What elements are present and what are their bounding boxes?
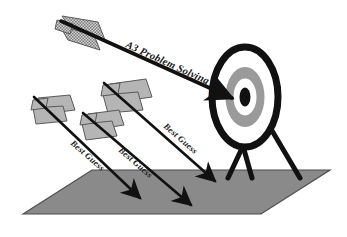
arrow-shaft <box>104 83 215 181</box>
arrow-label-a3-problem-solving: A3 Problem Solving <box>123 38 211 86</box>
arrow-label-best-guess-left: Best Guess <box>68 137 107 173</box>
archery-target <box>212 47 278 147</box>
bullseye <box>240 88 251 107</box>
arrow-best-guess-right: Best Guess <box>101 79 215 181</box>
fletching-plain-icon <box>101 79 152 113</box>
archery-diagram: A3 Problem Solving Best Guess Best Guess <box>0 0 347 237</box>
diagram-canvas: A3 Problem Solving Best Guess Best Guess <box>0 0 347 237</box>
